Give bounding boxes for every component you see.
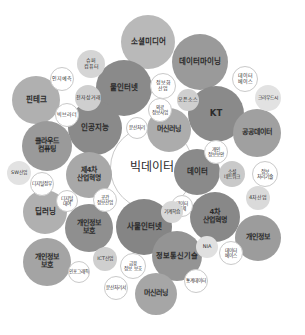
bubble-label: 소셜미디어: [130, 38, 167, 46]
bubble-label: 데이터 베이스: [237, 73, 254, 84]
bubble-9[interactable]: 클라우드 컴퓨팅: [22, 121, 72, 171]
bubble-label: 데이터마이닝: [178, 58, 222, 66]
bubble-39[interactable]: 공간 정보산업: [93, 188, 117, 212]
bubble-22[interactable]: 전자상거래: [75, 85, 101, 111]
bubble-24[interactable]: 정보화 산업: [150, 73, 176, 99]
bubble-label: 정보화 산업: [155, 80, 172, 91]
bubble-36[interactable]: SW산업: [7, 161, 31, 185]
bubble-label: 빅브라더: [56, 112, 78, 118]
bubble-42[interactable]: ICT산업: [93, 247, 117, 271]
bubble-label: 정보통신기술: [155, 252, 199, 260]
bubble-19[interactable]: 머신러닝: [135, 273, 177, 315]
bubble-label: 개인정보 보호: [76, 220, 102, 236]
bubble-label: 4차산업: [248, 195, 268, 201]
bubble-label: 금융 정보 보호: [123, 261, 142, 271]
bubble-8[interactable]: 공공데이터: [233, 109, 281, 157]
bubble-45[interactable]: 분산처리서: [104, 276, 128, 300]
bubble-26[interactable]: 오픈소스: [177, 89, 199, 111]
bubble-label: 디지털 대여: [60, 196, 74, 206]
bubble-label: 기계학습: [163, 209, 181, 214]
bubble-label: 개인정보: [245, 234, 271, 242]
bubble-label: 공간 정보산업: [96, 195, 114, 205]
bubble-33[interactable]: 4차산업: [246, 186, 270, 210]
bubble-41[interactable]: 데이터 베이스: [219, 241, 243, 265]
bubble-label: 클라우드 컴퓨팅: [34, 138, 60, 154]
bubble-label: 인공지능: [80, 124, 110, 132]
bubble-label: 인포그래픽: [68, 269, 90, 274]
bubble-27[interactable]: 문산처리: [126, 117, 148, 139]
bubble-44[interactable]: 인포그래픽: [68, 261, 90, 283]
bubble-label: 슈퍼 컴퓨터: [83, 58, 100, 69]
bubble-label: 제4차 산업혁명: [76, 167, 102, 182]
bubble-37[interactable]: 디지털정부: [30, 172, 54, 196]
bubble-label: 통계데이터: [185, 278, 207, 283]
bubble-40[interactable]: NIA: [196, 236, 218, 258]
bubble-30[interactable]: 개인 정보보안: [204, 140, 228, 164]
bubble-label: 인지예측: [51, 76, 73, 82]
bubble-chart: 빅데이터소셜미디어데이터마이닝물인터넷KT핀테크인공지능머신러닝공공데이터클라우…: [0, 0, 305, 335]
bubble-label: 공공데이터: [241, 129, 273, 137]
bubble-label: 머신러닝: [143, 290, 169, 298]
bubble-38[interactable]: 디지털 대여: [56, 190, 78, 212]
bubble-label: KT: [209, 109, 223, 119]
bubble-label: 사물인터넷: [126, 223, 163, 231]
bubble-31[interactable]: 소셜 네트워크: [219, 161, 245, 187]
bubble-32[interactable]: 정보 처리기술: [252, 161, 278, 187]
bubble-17[interactable]: 개인정보 보호: [23, 238, 71, 286]
bubble-label: 디지털정부: [31, 181, 53, 186]
bubble-29[interactable]: 크라우드시: [255, 85, 281, 111]
bubble-label: 핀테크: [25, 96, 48, 104]
bubble-label: 정보 처리기술: [256, 169, 274, 180]
bubble-label: 머신러닝: [156, 126, 182, 134]
bubble-label: 분산처리서: [105, 285, 127, 290]
bubble-label: 전자상거래: [75, 95, 101, 101]
bubble-label: 오픈소스: [177, 97, 199, 103]
bubble-label: 데이터 베이스: [224, 248, 238, 258]
bubble-label: 문산처리: [128, 125, 146, 130]
bubble-12[interactable]: 4차 산업혁명: [190, 192, 240, 242]
bubble-label: 의료 정보사업: [151, 105, 169, 115]
bubble-46[interactable]: 통계데이터: [184, 269, 208, 293]
bubble-label: 물인터넷: [109, 84, 139, 92]
bubble-label: 소셜 네트워크: [223, 169, 241, 180]
bubble-label: 딥러닝: [34, 208, 57, 216]
bubble-label: 크라우드시: [257, 95, 279, 100]
bubble-label: 데이터: [186, 168, 209, 176]
bubble-21[interactable]: 인지예측: [50, 67, 74, 91]
bubble-23[interactable]: 빅브라더: [55, 103, 79, 127]
bubble-43[interactable]: 금융 정보 보호: [120, 253, 146, 279]
bubble-label: ICT산업: [96, 256, 114, 261]
bubble-label: 개인정보 보호: [34, 254, 60, 270]
bubble-35[interactable]: 기계학습: [161, 201, 183, 223]
bubble-25[interactable]: 의료 정보사업: [148, 98, 172, 122]
bubble-28[interactable]: 데이터 베이스: [232, 66, 258, 92]
bubble-label: 4차 산업혁명: [202, 209, 228, 225]
bubble-label: 개인 정보보안: [207, 147, 225, 157]
bubble-label: NIA: [202, 244, 213, 250]
bubble-label: SW산업: [10, 170, 28, 175]
bubble-20[interactable]: 슈퍼 컴퓨터: [77, 50, 105, 78]
bubble-2[interactable]: 데이터마이닝: [172, 34, 228, 90]
bubble-label: 빅데이터: [129, 161, 175, 174]
